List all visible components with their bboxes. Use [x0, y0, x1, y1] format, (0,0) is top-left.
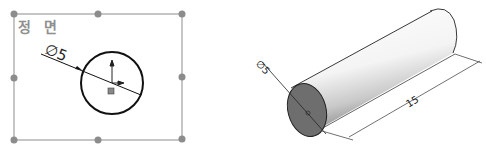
diameter-arrow-icon	[75, 66, 82, 70]
origin-axes-icon	[110, 60, 124, 85]
iso-cylinder	[282, 9, 457, 141]
origin-point-icon	[108, 88, 114, 94]
handle-top-left[interactable]	[11, 11, 18, 18]
handle-top-right[interactable]	[179, 11, 186, 18]
handle-bottom-left[interactable]	[11, 137, 18, 144]
view-label-front: 정 면	[18, 16, 61, 36]
handle-bottom-mid[interactable]	[95, 137, 102, 144]
handle-mid-right[interactable]	[179, 74, 186, 81]
handle-bottom-right[interactable]	[179, 136, 186, 143]
handle-top-mid[interactable]	[95, 11, 102, 18]
handle-mid-left[interactable]	[11, 75, 18, 82]
drawing-canvas	[0, 0, 486, 154]
